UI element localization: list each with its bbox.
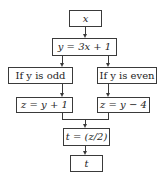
connector-line (85, 27, 86, 34)
node-label: If y is even (99, 71, 154, 81)
connector-line (62, 84, 63, 93)
connector-line (108, 56, 109, 63)
node-label: If y is odd (16, 71, 66, 81)
node-compute-t: t = (z/2) (63, 128, 110, 146)
node-odd-branch: If y is odd (8, 67, 73, 84)
flowchart: x y = 3x + 1 If y is odd If y is even z … (0, 0, 166, 181)
node-z-odd: z = y + 1 (16, 97, 73, 113)
node-label: x (83, 14, 89, 24)
node-z-even: z = y − 4 (97, 97, 150, 113)
node-label: z = y − 4 (100, 100, 147, 110)
node-label: t = (z/2) (66, 132, 108, 142)
node-label: z = y + 1 (21, 100, 68, 110)
node-output-t: t (70, 155, 103, 172)
connector-line (108, 84, 109, 93)
node-even-branch: If y is even (97, 67, 157, 84)
connector-line (62, 56, 63, 63)
node-label: t (84, 159, 88, 169)
node-label: y = 3x + 1 (58, 42, 112, 52)
node-input-x: x (69, 10, 102, 27)
node-compute-y: y = 3x + 1 (52, 38, 117, 56)
